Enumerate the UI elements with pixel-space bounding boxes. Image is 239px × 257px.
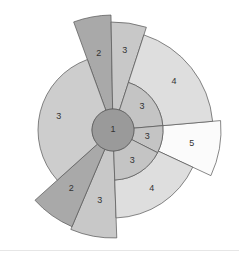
core-label: 1: [110, 124, 115, 134]
sector-label-lower-3: 3: [97, 195, 102, 205]
sector-label-top-2: 2: [96, 48, 101, 58]
sector-label-lower-4: 4: [149, 183, 154, 193]
sector-label-right-5: 5: [189, 138, 194, 148]
sector-label-lower-2: 2: [69, 183, 74, 193]
bottom-divider: [0, 250, 239, 251]
sunburst-diagram: 23435343323 1: [0, 0, 239, 257]
sector-label-top-3: 3: [122, 45, 127, 55]
sector-label-left-3: 3: [56, 111, 61, 121]
sector-label-inner-3a: 3: [139, 101, 144, 111]
sector-label-right-4: 4: [172, 76, 177, 86]
sector-label-inner-3b: 3: [145, 131, 150, 141]
sector-label-inner-3c: 3: [130, 155, 135, 165]
